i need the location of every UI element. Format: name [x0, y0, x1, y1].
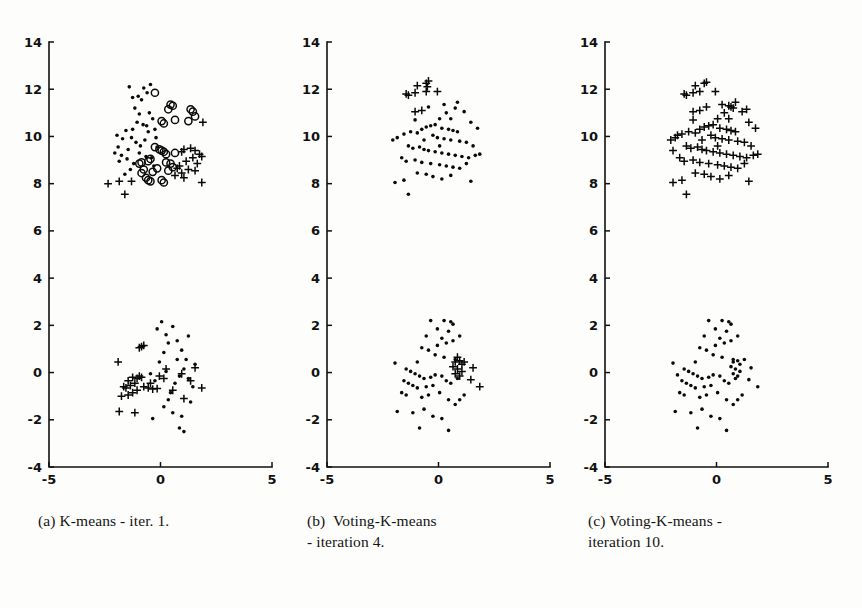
- svg-text:0: 0: [311, 365, 320, 380]
- svg-text:-4: -4: [584, 460, 598, 475]
- svg-text:-4: -4: [28, 460, 42, 475]
- svg-text:6: 6: [311, 223, 320, 238]
- svg-text:6: 6: [33, 223, 42, 238]
- svg-text:6: 6: [589, 223, 598, 238]
- svg-text:0: 0: [33, 365, 42, 380]
- svg-text:10: 10: [24, 129, 42, 144]
- caption-b-line2: - iteration 4.: [307, 531, 532, 552]
- svg-text:-2: -2: [584, 412, 598, 427]
- series-cluster-dot: [671, 319, 759, 432]
- svg-text:-4: -4: [306, 460, 320, 475]
- caption-panel-b: (b) Voting-K-means - iteration 4.: [307, 510, 532, 552]
- caption-panel-a: (a) K-means - iter. 1.: [38, 510, 268, 531]
- svg-text:0: 0: [712, 472, 721, 487]
- svg-text:-2: -2: [28, 412, 42, 427]
- scatter-panel-c: -4-202468101214-505: [556, 0, 843, 500]
- svg-text:12: 12: [302, 82, 320, 97]
- series-cluster-plus: [667, 78, 762, 198]
- svg-text:4: 4: [33, 271, 42, 286]
- panel-b-plot: -4-202468101214-505: [278, 0, 565, 500]
- svg-text:-5: -5: [320, 472, 334, 487]
- caption-a-line1: (a) K-means - iter. 1.: [38, 510, 268, 531]
- svg-text:5: 5: [545, 472, 554, 487]
- scatter-panel-a: -4-202468101214-505: [0, 0, 287, 500]
- svg-text:2: 2: [589, 318, 598, 333]
- caption-c-line1: (c) Voting-K-means -: [588, 510, 828, 531]
- svg-text:5: 5: [823, 472, 832, 487]
- series-cluster-plus: [104, 118, 207, 416]
- caption-b-line1: (b) Voting-K-means: [307, 510, 532, 531]
- caption-c-line2: iteration 10.: [588, 531, 828, 552]
- svg-text:10: 10: [580, 129, 598, 144]
- svg-text:-5: -5: [598, 472, 612, 487]
- svg-text:14: 14: [24, 35, 42, 50]
- svg-text:0: 0: [589, 365, 598, 380]
- panel-c-plot: -4-202468101214-505: [556, 0, 843, 500]
- svg-text:-5: -5: [42, 472, 56, 487]
- svg-text:12: 12: [24, 82, 42, 97]
- svg-text:4: 4: [589, 271, 598, 286]
- series-cluster-plus: [402, 77, 483, 391]
- svg-text:14: 14: [302, 35, 320, 50]
- svg-text:10: 10: [302, 129, 320, 144]
- svg-text:12: 12: [580, 82, 598, 97]
- svg-text:2: 2: [311, 318, 320, 333]
- figure-root: -4-202468101214-505 -4-202468101214-505 …: [0, 0, 862, 608]
- scatter-panel-b: -4-202468101214-505: [278, 0, 565, 500]
- svg-text:-2: -2: [306, 412, 320, 427]
- panel-a-plot: -4-202468101214-505: [0, 0, 287, 500]
- figure-captions: (a) K-means - iter. 1. (b) Voting-K-mean…: [0, 500, 862, 608]
- svg-text:8: 8: [589, 176, 598, 191]
- svg-text:8: 8: [311, 176, 320, 191]
- svg-text:14: 14: [580, 35, 598, 50]
- caption-panel-c: (c) Voting-K-means - iteration 10.: [588, 510, 828, 552]
- series-cluster-dot: [391, 100, 482, 432]
- svg-text:0: 0: [434, 472, 443, 487]
- svg-text:8: 8: [33, 176, 42, 191]
- svg-text:0: 0: [156, 472, 165, 487]
- svg-text:5: 5: [267, 472, 276, 487]
- svg-text:4: 4: [311, 271, 320, 286]
- svg-text:2: 2: [33, 318, 42, 333]
- series-cluster-circle: [136, 89, 199, 186]
